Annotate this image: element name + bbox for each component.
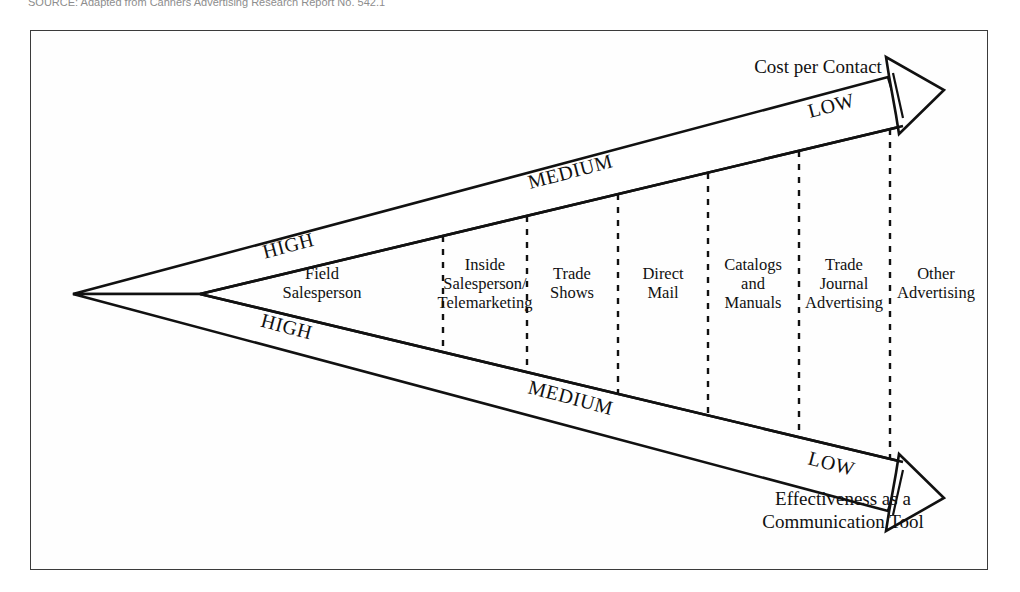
figure-frame <box>30 30 988 570</box>
source-note: SOURCE: Adapted from Cahners Advertising… <box>28 0 728 8</box>
source-note-text: SOURCE: Adapted from Cahners Advertising… <box>28 0 385 8</box>
